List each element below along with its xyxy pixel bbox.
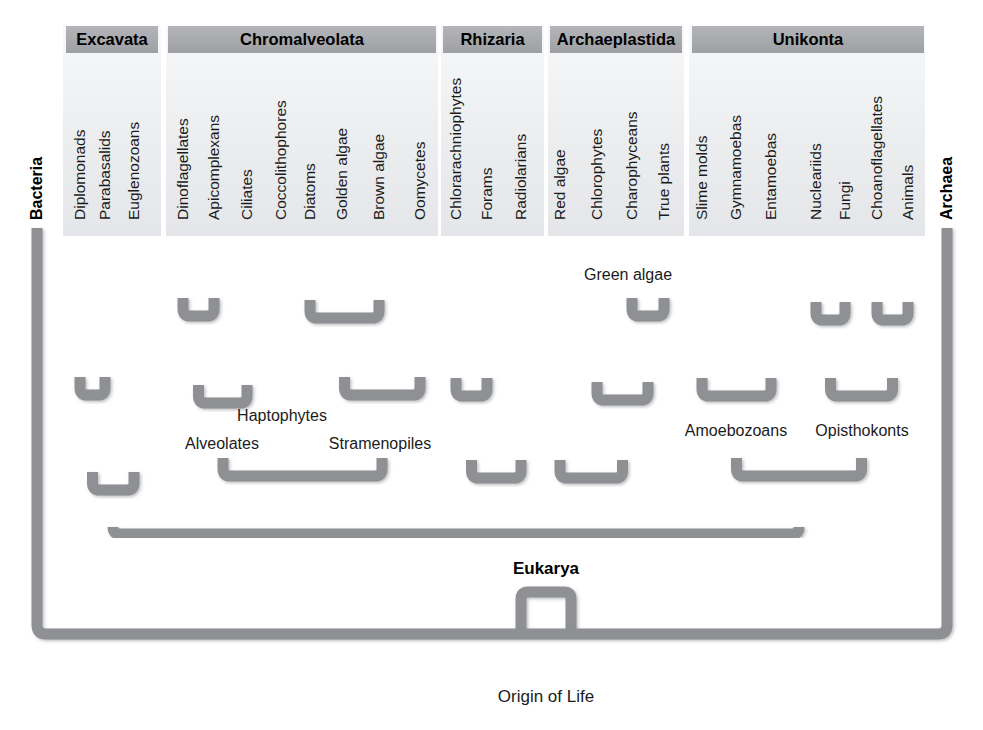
rhiz-cf-bracket [456,378,487,396]
alv-da-bracket [183,298,214,316]
clade-label-stramenopiles: Stramenopiles [329,435,431,452]
eukarya-label: Eukarya [513,559,580,578]
taxon-label-charophyceans: Charophyceans [623,111,640,220]
opis-ca-bracket [877,302,908,320]
taxon-label-entamoebas: Entamoebas [762,133,779,220]
alveolates-bracket [199,385,248,403]
taxon-label-slime-molds: Slime molds [693,135,710,220]
taxon-label-dinoflagellates: Dinoflagellates [174,118,191,220]
chromalveolata-root-bracket [223,458,382,476]
supergroup-title-unikonta: Unikonta [773,30,844,48]
phylogenetic-tree-figure: ExcavataChromalveolataRhizariaArchaeplas… [0,0,983,730]
taxon-label-chlorophytes: Chlorophytes [588,128,605,220]
archaeplastida-root-bracket [560,460,623,478]
rhizaria-root-bracket [472,460,522,478]
stramenopiles-bracket [345,377,421,395]
taxon-label-radiolarians: Radiolarians [512,134,529,220]
taxon-label-ciliates: Ciliates [238,169,255,220]
clade-label-amoebozoans: Amoebozoans [685,422,787,439]
taxon-label-coccolithophores: Coccolithophores [272,100,289,220]
eukarya-node-square [521,592,571,634]
tree-branches [37,228,947,684]
taxon-label-choanoflagellates: Choanoflagellates [868,96,885,220]
taxon-label-golden-algae: Golden algae [333,128,350,220]
taxon-label-diatoms: Diatoms [301,163,318,220]
domain-label-bacteria: Bacteria [28,157,45,220]
taxon-label-chlorarachniophytes: Chlorarachniophytes [447,78,464,220]
taxon-label-diplomonads: Diplomonads [71,129,88,220]
taxon-label-true-plants: True plants [655,143,672,220]
taxon-label-animals: Animals [899,165,916,220]
taxon-label-forams: Forams [478,167,495,220]
arch-ct-bracket [632,298,664,316]
supergroup-headers: ExcavataChromalveolataRhizariaArchaeplas… [66,26,924,53]
excavata-dp-bracket [80,377,105,395]
taxon-label-brown-algae: Brown algae [370,134,387,220]
taxon-label-oomycetes: Oomycetes [411,141,428,220]
taxon-label-parabasalids: Parabasalids [96,130,113,220]
unikonta-root-bracket [737,458,862,476]
opis-nf-bracket [816,302,845,320]
clade-label-haptophytes: Haptophytes [237,407,327,424]
taxon-label-red-algae: Red algae [551,149,568,220]
supergroup-title-chromalveolata: Chromalveolata [240,30,365,48]
taxon-label-apicomplexans: Apicomplexans [205,115,222,220]
clade-label-alveolates: Alveolates [185,435,259,452]
taxon-label-nucleariids: Nucleariids [807,143,824,220]
supergroup-title-archaeplastida: Archaeplastida [557,30,676,48]
tree-canvas: ExcavataChromalveolataRhizariaArchaeplas… [0,0,983,730]
taxon-label-gymnamoebas: Gymnamoebas [727,115,744,220]
taxon-label-fungi: Fungi [836,181,853,220]
clade-label-opisthokonts: Opisthokonts [815,422,908,439]
eukarya-backbone [113,527,799,534]
supergroup-title-rhizaria: Rhizaria [460,30,525,48]
opisthokonts-bracket [831,378,893,396]
clade-label-green-algae: Green algae [584,266,672,283]
supergroup-title-excavata: Excavata [76,30,148,48]
excavata-root-bracket [93,472,135,490]
green-algae-bracket [597,382,648,400]
taxon-label-euglenozoans: Euglenozoans [125,122,142,220]
domain-label-archaea: Archaea [938,157,955,220]
origin-of-life-label: Origin of Life [498,687,594,706]
